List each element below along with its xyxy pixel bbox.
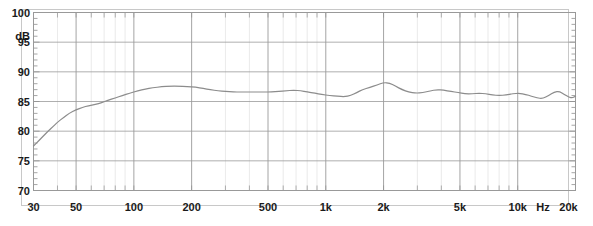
x-tick-label: 5k (454, 201, 467, 213)
y-tick-label: 90 (18, 66, 30, 78)
y-tick-label: 70 (18, 185, 30, 197)
x-axis-tick-labels: 30501002005001k2k5k10k20k (27, 201, 578, 213)
frequency-response-chart: 707580859095100 30501002005001k2k5k10k20… (0, 0, 593, 226)
x-tick-label: 2k (377, 201, 390, 213)
response-curve-line (34, 83, 576, 146)
y-tick-label: 85 (18, 96, 30, 108)
x-tick-label: 30 (27, 201, 39, 213)
x-tick-label: 20k (559, 201, 578, 213)
x-axis-unit-label: Hz (536, 201, 550, 213)
x-tick-label: 50 (70, 201, 82, 213)
x-tick-label: 100 (125, 201, 143, 213)
x-tick-label: 10k (509, 201, 528, 213)
plot-canvas: 707580859095100 30501002005001k2k5k10k20… (0, 0, 593, 226)
x-tick-label: 1k (320, 201, 333, 213)
x-tick-label: 200 (182, 201, 200, 213)
y-tick-label: 75 (18, 155, 30, 167)
y-tick-label: 100 (12, 7, 30, 19)
horizontal-gridlines (34, 42, 576, 161)
y-tick-label: 80 (18, 125, 30, 137)
y-axis-unit-label: dB (15, 30, 30, 42)
x-tick-label: 500 (259, 201, 277, 213)
